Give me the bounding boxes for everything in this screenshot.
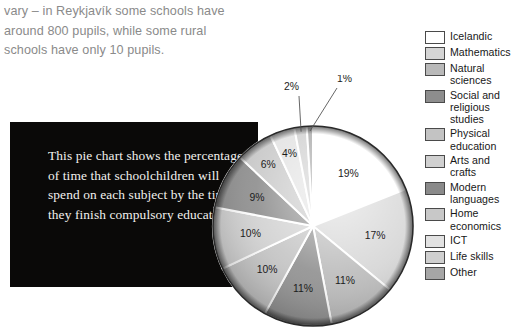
pie-slices [213,126,413,326]
legend-swatch-icon [425,251,445,264]
legend-item[interactable]: Other [425,266,517,280]
legend-swatch-icon [425,63,445,76]
legend-item[interactable]: Modern languages [425,181,517,206]
legend-item-label: Physical education [450,127,517,152]
legend-item[interactable]: ICT [425,234,517,248]
legend-item[interactable]: Natural sciences [425,62,517,87]
pie-slice-label: 9% [249,192,264,203]
pie-chart-svg: 19%17%11%11%10%10%9%6%4%2%1% [207,75,423,331]
legend-item-label: Other [450,266,477,278]
legend-item-label: Social and religious studies [450,89,517,126]
legend-item[interactable]: Arts and crafts [425,154,517,179]
pie-label-leader-line [310,88,337,131]
legend-swatch-icon [425,90,445,103]
pie-slice-label: 11% [335,275,355,286]
legend-swatch-icon [425,128,445,141]
legend-swatch-icon [425,182,445,195]
legend-item[interactable]: Physical education [425,127,517,152]
legend-item[interactable]: Mathematics [425,46,517,60]
legend-item-label: Icelandic [450,30,492,42]
pie-slice-label: 6% [261,159,276,170]
legend-swatch-icon [425,155,445,168]
legend-item-label: Arts and crafts [450,154,517,179]
legend-swatch-icon [425,208,445,221]
pie-chart: 19%17%11%11%10%10%9%6%4%2%1% [207,75,423,291]
pie-slice-label: 10% [240,228,261,239]
pie-slice-label-outside: 1% [337,75,352,84]
legend-item-label: Mathematics [450,46,511,58]
pie-slice-label: 11% [293,283,313,294]
legend-item-label: Life skills [450,250,494,262]
legend-swatch-icon [425,267,445,280]
legend-item[interactable]: Home economics [425,207,517,232]
pie-slice-label: 4% [282,148,297,159]
pie-slice-label: 10% [257,264,278,275]
intro-paragraph: vary – in Reykjavík some schools have ar… [4,2,234,61]
legend-swatch-icon [425,31,445,44]
pie-slice-label: 19% [338,168,359,179]
pie-slice-label: 17% [365,230,386,241]
chart-legend: IcelandicMathematicsNatural sciencesSoci… [425,30,517,282]
legend-swatch-icon [425,47,445,60]
legend-item[interactable]: Icelandic [425,30,517,44]
legend-item-label: Modern languages [450,181,517,206]
legend-item[interactable]: Social and religious studies [425,89,517,126]
legend-item[interactable]: Life skills [425,250,517,264]
legend-item-label: Home economics [450,207,517,232]
pie-slice-label-outside: 2% [284,81,299,92]
legend-item-label: ICT [450,234,467,246]
legend-item-label: Natural sciences [450,62,517,87]
legend-swatch-icon [425,235,445,248]
